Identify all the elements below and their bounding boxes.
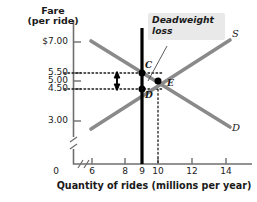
x-axis-ticks — [92, 158, 226, 164]
x-tick-label-12: 12 — [183, 167, 201, 176]
point-C — [139, 70, 146, 77]
deadweight-loss-line2: loss — [152, 26, 222, 37]
x-tick-label-6: 6 — [83, 167, 101, 176]
demand-curve-label: D — [232, 123, 240, 134]
deadweight-loss-line1: Deadweight — [152, 14, 214, 25]
y-axis-break-icon — [70, 137, 77, 149]
x-tick-label-0: 0 — [47, 167, 65, 176]
wedge-double-arrow-icon — [114, 72, 120, 91]
supply-demand-quota-chart: Fare (per ride) $7.00 5.50 5.00 4.50 3.0… — [0, 0, 257, 202]
x-tick-label-8: 8 — [116, 167, 134, 176]
supply-curve-label: S — [232, 29, 239, 40]
deadweight-loss-annotation: Deadweight loss — [148, 13, 225, 40]
point-label-C: C — [145, 61, 152, 70]
y-tick-label-4-50: 4.50 — [22, 84, 68, 93]
y-axis-title: Fare (per ride) — [16, 6, 90, 26]
x-axis-title: Quantity of rides (millions per year) — [52, 181, 256, 191]
point-label-E: E — [167, 79, 174, 88]
point-E — [155, 78, 162, 85]
y-axis-ticks — [74, 42, 82, 121]
y-tick-label-3-00: 3.00 — [22, 116, 68, 125]
y-axis-title-line2: (per ride) — [16, 16, 90, 26]
point-label-D: D — [145, 91, 153, 100]
y-tick-label-7-00: $7.00 — [22, 37, 68, 46]
x-tick-label-14: 14 — [217, 167, 235, 176]
x-tick-label-10: 10 — [149, 167, 167, 176]
